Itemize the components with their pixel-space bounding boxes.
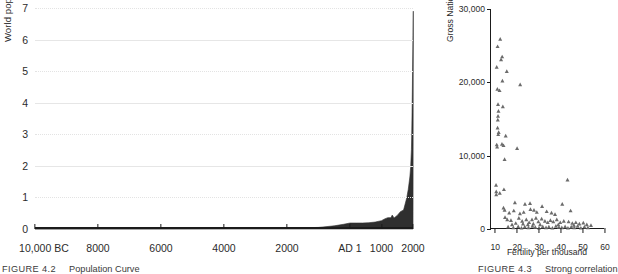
scatter-point (543, 219, 547, 223)
scatter-point (567, 220, 571, 224)
scatter-point (548, 218, 552, 222)
x-tick-mark-left (223, 224, 224, 229)
figure-caption-left: FIGURE 4.2Population Curve (2, 264, 140, 274)
scatter-point (522, 210, 526, 214)
scatter-point (534, 216, 538, 220)
figure-population-curve: World population, billions 0123456710,00… (0, 0, 432, 273)
x-tick-label-left: 8000 (86, 242, 109, 254)
y-tick-label-right: 20,000 (459, 77, 485, 87)
y-tick-mark-right (487, 156, 492, 157)
scatter-point (502, 187, 506, 191)
y-tick-label-left: 5 (22, 65, 28, 77)
scatter-point (496, 118, 500, 122)
x-tick-label-left: 4000 (212, 242, 235, 254)
y-tick-mark-right (487, 229, 492, 230)
y-tick-label-left: 7 (22, 2, 28, 14)
scatter-point (507, 211, 511, 215)
scatter-point (581, 221, 585, 225)
x-tick-label-left: 2000 (401, 242, 424, 254)
scatter-point (558, 220, 562, 224)
scatter-point (498, 191, 502, 195)
x-tick-mark-left (412, 224, 413, 229)
scatter-point (547, 225, 551, 229)
x-tick-mark-right (604, 228, 605, 233)
x-tick-mark-right (517, 228, 518, 233)
figure-caption-right: FIGURE 4.3Strong correlation (478, 264, 618, 274)
scatter-point (550, 211, 554, 215)
scatter-point (500, 79, 504, 83)
gridline (35, 197, 413, 199)
figure-caption-id-right: FIGURE 4.3 (478, 264, 532, 274)
scatter-point (574, 220, 578, 224)
scatter-point (515, 146, 519, 150)
scatter-point (494, 183, 498, 187)
gridline (35, 103, 413, 105)
scatter-point (509, 218, 513, 222)
y-tick-label-right: 10,000 (459, 151, 485, 161)
scatter-point (500, 55, 504, 59)
y-tick-label-left: 2 (22, 160, 28, 172)
scatter-point (496, 114, 500, 118)
figure-caption-text-left: Population Curve (69, 264, 139, 274)
scatter-point (569, 209, 573, 213)
y-tick-label-left: 3 (22, 128, 28, 140)
gridline (35, 166, 413, 168)
scatter-point (514, 221, 518, 225)
gridline (35, 71, 413, 73)
scatter-point (555, 217, 559, 221)
x-tick-mark-right (495, 228, 496, 233)
y-tick-label-left: 0 (22, 223, 28, 235)
scatter-point (513, 201, 517, 205)
x-tick-mark-right (583, 228, 584, 233)
figure-caption-id-left: FIGURE 4.2 (2, 264, 56, 274)
scatter-point (562, 219, 566, 223)
figure-caption-text-right: Strong correlation (545, 264, 618, 274)
scatter-point (544, 226, 548, 230)
y-axis-label-left: World population, billions (2, 0, 13, 58)
x-tick-mark-left (34, 224, 35, 229)
scatter-point (528, 201, 532, 205)
scatter-point (560, 202, 564, 206)
x-axis-label-right: Fertility per thousand (490, 247, 604, 257)
scatter-point (540, 204, 544, 208)
scatter-point (496, 109, 500, 113)
scatter-point (520, 219, 524, 223)
scatter-point (496, 126, 500, 130)
x-tick-label-left: 2000 (275, 242, 298, 254)
y-tick-mark-right (487, 82, 492, 83)
x-tick-mark-left (97, 224, 98, 229)
x-tick-mark-left (160, 224, 161, 229)
y-tick-label-left: 4 (22, 97, 28, 109)
gridline (35, 40, 413, 42)
plot-area-population: 0123456710,000 BC8000600040002000AD 1100… (35, 8, 413, 229)
scatter-point (512, 209, 516, 213)
scatter-point (518, 212, 522, 216)
scatter-point (540, 217, 544, 221)
scatter-point (563, 224, 567, 228)
scatter-point (589, 223, 593, 227)
scatter-point (536, 220, 540, 224)
y-tick-label-right: 0 (480, 224, 485, 234)
scatter-point (550, 226, 554, 230)
scatter-point (496, 102, 500, 106)
scatter-point (510, 223, 514, 227)
gridline (35, 8, 413, 10)
scatter-point (495, 65, 499, 69)
scatter-point (506, 225, 510, 229)
y-tick-label-left: 6 (22, 34, 28, 46)
scatter-point (498, 37, 502, 41)
x-tick-mark-left (349, 224, 350, 229)
scatter-point (530, 217, 534, 221)
gridline (35, 134, 413, 136)
scatter-point (566, 178, 570, 182)
scatter-point (524, 217, 528, 221)
x-tick-label-left: 6000 (149, 242, 172, 254)
scatter-point (517, 216, 521, 220)
x-tick-label-left: 10,000 BC (19, 242, 69, 254)
x-tick-mark-left (381, 224, 382, 229)
figure-strong-correlation: Gross National Product per capita 010,00… (432, 0, 616, 273)
scatter-point (496, 44, 500, 48)
scatter-point (585, 223, 589, 227)
scatter-point (531, 222, 535, 226)
scatter-point (503, 215, 507, 219)
